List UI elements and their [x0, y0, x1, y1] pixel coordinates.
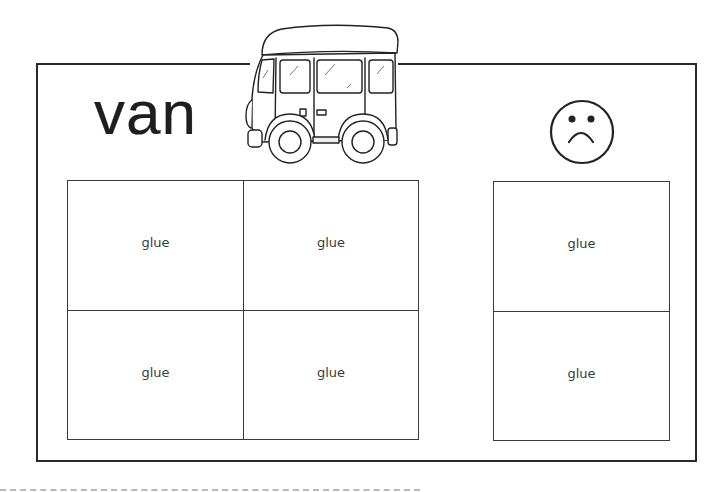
glue-label: glue — [317, 365, 345, 380]
glue-label: glue — [317, 235, 345, 250]
no-glue-column: glue glue — [493, 181, 670, 441]
glue-box: glue — [68, 311, 244, 439]
target-word: van — [94, 82, 197, 144]
glue-box: glue — [494, 312, 669, 440]
glue-box: glue — [68, 181, 244, 311]
glue-label: glue — [141, 235, 169, 250]
glue-label: glue — [141, 365, 169, 380]
yes-glue-grid: glue glue glue glue — [67, 180, 419, 440]
glue-box: glue — [244, 311, 418, 439]
glue-label: glue — [567, 236, 595, 251]
sad-face-icon — [546, 96, 618, 168]
glue-label: glue — [567, 366, 595, 381]
dashed-cut-line — [0, 489, 420, 491]
glue-box: glue — [494, 182, 669, 312]
glue-box: glue — [244, 181, 418, 311]
van-illustration — [236, 18, 406, 170]
